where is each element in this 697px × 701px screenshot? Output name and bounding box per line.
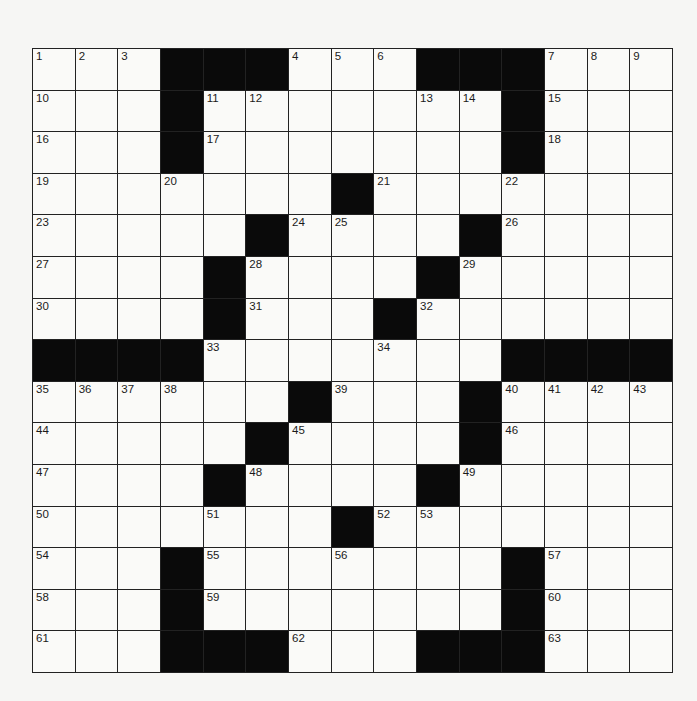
answer-cell[interactable] — [374, 257, 416, 298]
answer-cell[interactable] — [76, 590, 118, 631]
answer-cell[interactable] — [630, 215, 672, 256]
answer-cell[interactable] — [76, 299, 118, 340]
answer-cell[interactable] — [417, 548, 459, 589]
answer-cell[interactable]: 40 — [502, 382, 544, 423]
answer-cell[interactable]: 30 — [33, 299, 75, 340]
answer-cell[interactable] — [161, 423, 203, 464]
answer-cell[interactable] — [332, 590, 374, 631]
answer-cell[interactable]: 48 — [246, 465, 288, 506]
answer-cell[interactable] — [289, 91, 331, 132]
answer-cell[interactable] — [588, 299, 630, 340]
answer-cell[interactable]: 19 — [33, 174, 75, 215]
answer-cell[interactable] — [332, 340, 374, 381]
answer-cell[interactable]: 43 — [630, 382, 672, 423]
answer-cell[interactable] — [289, 590, 331, 631]
answer-cell[interactable] — [460, 548, 502, 589]
answer-cell[interactable] — [289, 548, 331, 589]
answer-cell[interactable] — [204, 423, 246, 464]
answer-cell[interactable] — [76, 507, 118, 548]
answer-cell[interactable] — [118, 132, 160, 173]
answer-cell[interactable] — [460, 299, 502, 340]
answer-cell[interactable]: 7 — [545, 49, 587, 90]
answer-cell[interactable] — [76, 215, 118, 256]
answer-cell[interactable]: 18 — [545, 132, 587, 173]
answer-cell[interactable]: 22 — [502, 174, 544, 215]
answer-cell[interactable] — [246, 507, 288, 548]
answer-cell[interactable]: 6 — [374, 49, 416, 90]
answer-cell[interactable]: 5 — [332, 49, 374, 90]
answer-cell[interactable] — [588, 91, 630, 132]
answer-cell[interactable] — [76, 174, 118, 215]
answer-cell[interactable]: 26 — [502, 215, 544, 256]
answer-cell[interactable] — [332, 257, 374, 298]
answer-cell[interactable] — [76, 465, 118, 506]
answer-cell[interactable] — [460, 340, 502, 381]
answer-cell[interactable] — [630, 91, 672, 132]
answer-cell[interactable] — [118, 215, 160, 256]
answer-cell[interactable]: 58 — [33, 590, 75, 631]
answer-cell[interactable] — [332, 631, 374, 672]
answer-cell[interactable] — [161, 507, 203, 548]
answer-cell[interactable]: 1 — [33, 49, 75, 90]
answer-cell[interactable] — [630, 548, 672, 589]
answer-cell[interactable]: 25 — [332, 215, 374, 256]
answer-cell[interactable] — [246, 174, 288, 215]
answer-cell[interactable] — [332, 423, 374, 464]
answer-cell[interactable]: 24 — [289, 215, 331, 256]
answer-cell[interactable] — [289, 174, 331, 215]
answer-cell[interactable] — [332, 299, 374, 340]
answer-cell[interactable] — [118, 91, 160, 132]
answer-cell[interactable]: 27 — [33, 257, 75, 298]
answer-cell[interactable] — [246, 382, 288, 423]
answer-cell[interactable] — [246, 590, 288, 631]
answer-cell[interactable] — [545, 507, 587, 548]
answer-cell[interactable]: 36 — [76, 382, 118, 423]
answer-cell[interactable]: 11 — [204, 91, 246, 132]
answer-cell[interactable] — [460, 174, 502, 215]
answer-cell[interactable] — [630, 257, 672, 298]
answer-cell[interactable]: 62 — [289, 631, 331, 672]
answer-cell[interactable] — [460, 590, 502, 631]
answer-cell[interactable] — [289, 340, 331, 381]
answer-cell[interactable]: 10 — [33, 91, 75, 132]
answer-cell[interactable] — [204, 174, 246, 215]
answer-cell[interactable] — [118, 423, 160, 464]
answer-cell[interactable]: 4 — [289, 49, 331, 90]
answer-cell[interactable] — [374, 548, 416, 589]
answer-cell[interactable] — [502, 299, 544, 340]
answer-cell[interactable] — [588, 631, 630, 672]
answer-cell[interactable] — [289, 132, 331, 173]
answer-cell[interactable]: 14 — [460, 91, 502, 132]
answer-cell[interactable] — [588, 590, 630, 631]
answer-cell[interactable] — [246, 548, 288, 589]
answer-cell[interactable] — [118, 507, 160, 548]
answer-cell[interactable]: 21 — [374, 174, 416, 215]
answer-cell[interactable]: 52 — [374, 507, 416, 548]
answer-cell[interactable] — [118, 174, 160, 215]
answer-cell[interactable] — [76, 91, 118, 132]
answer-cell[interactable] — [417, 132, 459, 173]
answer-cell[interactable] — [289, 507, 331, 548]
answer-cell[interactable] — [161, 299, 203, 340]
answer-cell[interactable] — [502, 507, 544, 548]
answer-cell[interactable] — [246, 340, 288, 381]
answer-cell[interactable] — [374, 590, 416, 631]
answer-cell[interactable] — [374, 631, 416, 672]
answer-cell[interactable] — [630, 423, 672, 464]
answer-cell[interactable]: 63 — [545, 631, 587, 672]
answer-cell[interactable] — [374, 91, 416, 132]
answer-cell[interactable]: 17 — [204, 132, 246, 173]
answer-cell[interactable] — [374, 132, 416, 173]
answer-cell[interactable] — [502, 465, 544, 506]
answer-cell[interactable]: 34 — [374, 340, 416, 381]
answer-cell[interactable]: 50 — [33, 507, 75, 548]
answer-cell[interactable]: 53 — [417, 507, 459, 548]
answer-cell[interactable] — [118, 257, 160, 298]
answer-cell[interactable] — [630, 507, 672, 548]
answer-cell[interactable] — [118, 548, 160, 589]
answer-cell[interactable]: 46 — [502, 423, 544, 464]
answer-cell[interactable]: 2 — [76, 49, 118, 90]
answer-cell[interactable] — [417, 590, 459, 631]
answer-cell[interactable] — [374, 215, 416, 256]
answer-cell[interactable] — [161, 215, 203, 256]
